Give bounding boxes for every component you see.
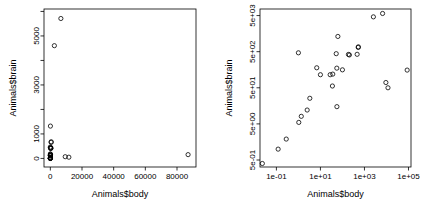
y-axis-label: Animals$brain <box>224 59 234 116</box>
data-point <box>276 147 280 151</box>
data-point <box>260 161 264 165</box>
data-point <box>315 66 319 70</box>
figure-root: 0200004000060000800000100030005000Animal… <box>0 0 423 215</box>
data-point <box>186 153 190 157</box>
x-axis-tick-label: 60000 <box>134 172 157 181</box>
data-point <box>59 16 63 20</box>
y-axis-label: Animals$brain <box>8 59 18 116</box>
data-point <box>340 68 344 72</box>
y-axis-tick-label: 3000 <box>32 75 41 93</box>
data-point <box>380 11 384 15</box>
data-point <box>284 137 288 141</box>
plot-frame <box>44 9 196 167</box>
x-axis-tick-label: 1e-01 <box>266 172 287 181</box>
x-axis-label: Animals$body <box>92 189 149 199</box>
data-point <box>386 86 390 90</box>
data-point <box>335 105 339 109</box>
y-axis-tick-label: 5e-01 <box>248 149 257 170</box>
x-axis-tick-label: 20000 <box>71 172 94 181</box>
data-point <box>405 68 409 72</box>
data-point <box>336 34 340 38</box>
plot-frame <box>260 9 411 167</box>
data-point <box>384 80 388 84</box>
data-point <box>371 15 375 19</box>
x-axis-tick-label: 1e+01 <box>309 172 332 181</box>
scatter-panel-linear: 0200004000060000800000100030005000Animal… <box>0 0 211 215</box>
y-axis-tick-label: 5e+02 <box>248 40 257 63</box>
data-point <box>305 108 309 112</box>
data-point <box>355 52 359 56</box>
data-point <box>328 73 332 77</box>
scatter-plot-loglog-svg: 1e-011e+011e+031e+055e-015e+005e+015e+02… <box>212 0 423 215</box>
scatter-panel-loglog: 1e-011e+011e+031e+055e-015e+005e+015e+02… <box>212 0 423 215</box>
x-axis-tick-label: 1e+05 <box>397 172 420 181</box>
x-axis-tick-label: 1e+03 <box>353 172 376 181</box>
data-point <box>308 96 312 100</box>
y-axis-tick-label: 1000 <box>32 124 41 142</box>
scatter-plot-linear-svg: 0200004000060000800000100030005000Animal… <box>0 0 211 215</box>
data-point <box>334 52 338 56</box>
y-axis-tick-label: 5000 <box>32 26 41 44</box>
data-point <box>299 114 303 118</box>
y-axis-tick-label: 0 <box>32 156 41 161</box>
y-axis-tick-label: 5e+01 <box>248 76 257 99</box>
x-axis-label: Animals$body <box>307 189 364 199</box>
x-axis-tick-label: 0 <box>48 172 53 181</box>
data-point <box>52 44 56 48</box>
data-point <box>48 124 52 128</box>
data-point <box>296 51 300 55</box>
y-axis-tick-label: 5e+03 <box>248 4 257 27</box>
x-axis-tick-label: 40000 <box>103 172 126 181</box>
data-point <box>335 66 339 70</box>
data-point <box>318 73 322 77</box>
y-axis-tick-label: 5e+00 <box>248 112 257 135</box>
data-point <box>330 84 334 88</box>
data-point <box>297 120 301 124</box>
x-axis-tick-label: 80000 <box>166 172 189 181</box>
